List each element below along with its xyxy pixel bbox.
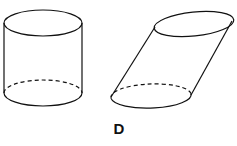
top-base-ellipse (153, 8, 235, 40)
bottom-hidden-arc (4, 80, 82, 93)
bottom-visible-arc (4, 93, 82, 106)
right-cylinder (4, 10, 82, 106)
right-side-edge (191, 21, 232, 95)
oblique-cylinder (110, 8, 235, 110)
top-base-ellipse (4, 10, 82, 36)
bottom-visible-arc (111, 94, 192, 110)
left-side-edge (111, 27, 155, 97)
figure-label: D (108, 121, 130, 137)
bottom-hidden-arc (110, 83, 191, 99)
